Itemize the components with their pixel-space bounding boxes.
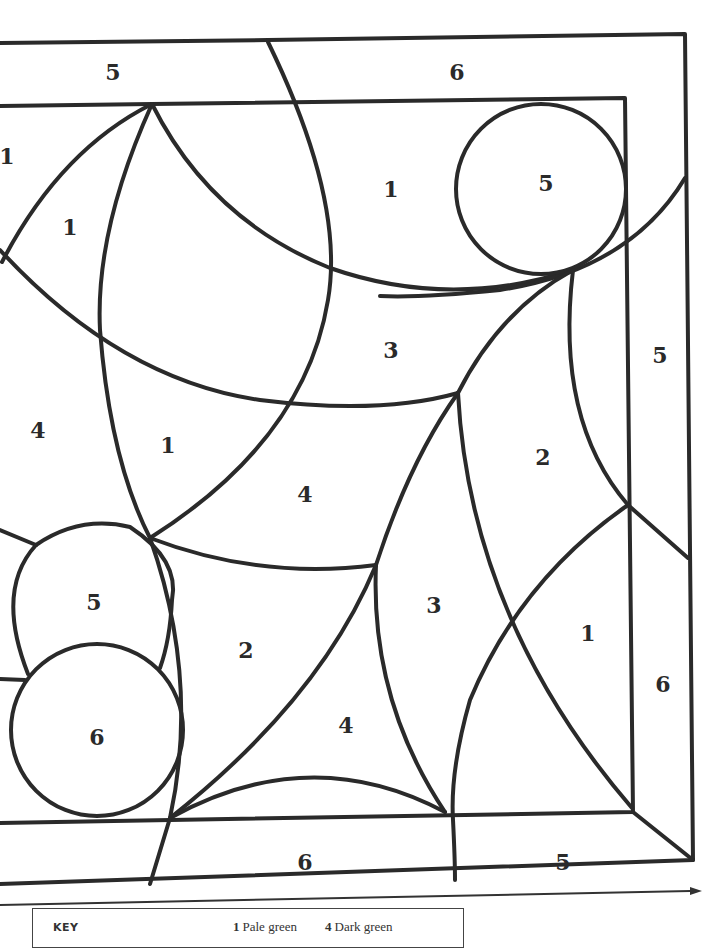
region-number-center-band: 3 xyxy=(383,339,398,361)
arc-right-sweep xyxy=(380,178,685,296)
region-number-left-lower-circle: 5 xyxy=(86,591,101,613)
region-number-right-band-lower: 6 xyxy=(655,673,670,695)
key-title: KEY xyxy=(53,921,79,934)
large-arc xyxy=(150,42,331,538)
circle-left-upper-bottom xyxy=(13,545,36,674)
region-number-lower-right: 1 xyxy=(580,622,595,644)
region-number-bottom-band-center: 6 xyxy=(297,851,312,873)
region-number-top-right-circle: 5 xyxy=(538,172,553,194)
line-left-upper xyxy=(0,530,36,545)
region-number-left-center-petal: 1 xyxy=(160,434,175,456)
line-left-lower xyxy=(0,679,25,680)
region-number-upper-middle: 1 xyxy=(383,178,398,200)
arc-mid-horizontal xyxy=(150,538,376,569)
arrow-head-icon xyxy=(690,887,702,895)
key-item-1: 1Pale green xyxy=(233,919,297,935)
arc-lower-right xyxy=(453,505,628,880)
corner-diagonal xyxy=(633,812,693,860)
region-number-right-middle: 2 xyxy=(535,446,550,468)
arc-left-long xyxy=(150,538,181,884)
region-number-left-middle: 4 xyxy=(30,419,45,441)
region-number-lower-center-left: 2 xyxy=(238,639,253,661)
region-number-right-band-upper: 5 xyxy=(652,344,667,366)
region-number-far-left-top: 1 xyxy=(0,145,15,167)
arc-right-inner xyxy=(569,270,628,505)
arc-petal xyxy=(100,104,152,538)
color-key: KEY 1Pale green 4Dark green xyxy=(32,908,464,948)
region-number-left-upper-petal: 1 xyxy=(62,216,77,238)
region-number-bottom-band-right: 5 xyxy=(555,851,570,873)
region-number-top-band-right: 6 xyxy=(449,61,464,83)
arc-sweep xyxy=(152,104,573,290)
region-number-lower-center: 3 xyxy=(426,594,441,616)
arc-to-mid xyxy=(376,393,458,565)
region-number-center: 4 xyxy=(297,483,312,505)
arc-right-outer xyxy=(628,505,688,558)
arrow-line xyxy=(0,891,690,905)
region-number-top-band-left: 5 xyxy=(105,61,120,83)
region-number-bottom-left-circle: 6 xyxy=(89,726,104,748)
region-number-lower-diamond: 4 xyxy=(338,714,353,736)
key-item-4: 4Dark green xyxy=(325,919,393,935)
arc-middle-wave xyxy=(0,250,458,406)
